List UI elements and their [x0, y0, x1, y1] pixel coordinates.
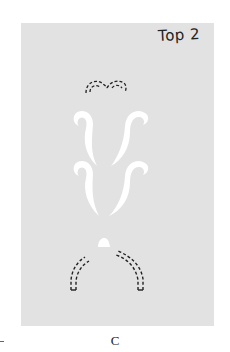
figure-caption: C: [0, 333, 230, 349]
top-dashed-double-arch-icon: [86, 81, 126, 93]
small-dome-cutout-icon: [98, 238, 110, 247]
upper-scroll-pair-icon: [74, 111, 149, 166]
bottom-dashed-arcs-icon: [71, 251, 143, 290]
lower-scroll-pair-icon: [74, 161, 149, 216]
stencil-artwork: [0, 0, 230, 352]
